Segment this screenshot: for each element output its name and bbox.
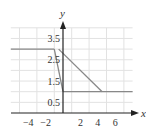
x-tick-label: 4 xyxy=(95,117,100,128)
y-axis-arrow-icon xyxy=(60,21,66,29)
y-tick-label: 2.5 xyxy=(48,54,61,65)
y-tick-label: 0.5 xyxy=(48,97,61,108)
x-tick-label: −4 xyxy=(23,117,34,128)
x-tick-label: 6 xyxy=(113,117,118,128)
x-tick-label: −2 xyxy=(40,117,51,128)
x-tick-label: 2 xyxy=(78,117,83,128)
x-axis-label: x xyxy=(140,107,146,119)
line-chart: x y −4−22460.51.52.53.5 xyxy=(0,0,146,133)
y-axis-label: y xyxy=(59,7,65,19)
x-axis-arrow-icon xyxy=(131,110,139,116)
grid xyxy=(11,28,133,113)
y-tick-label: 3.5 xyxy=(48,33,61,44)
y-tick-label: 1.5 xyxy=(48,76,61,87)
